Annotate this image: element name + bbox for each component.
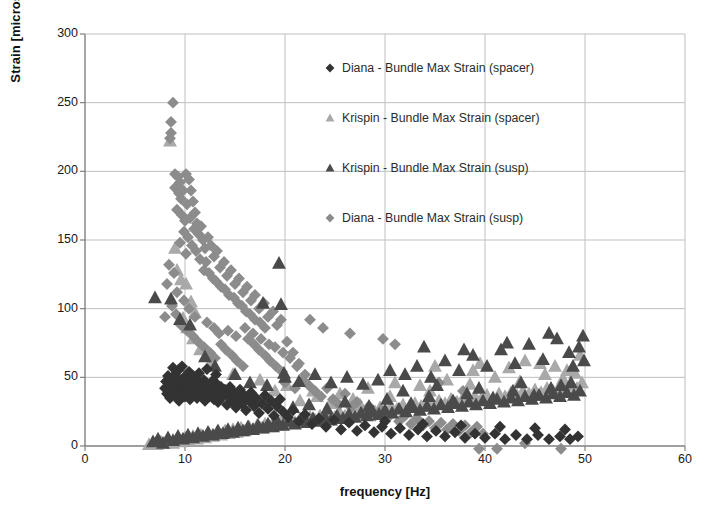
x-tick-label: 60 [665,452,705,466]
data-point [488,370,502,383]
data-point [371,373,385,386]
data-point [510,429,522,441]
legend-item-3[interactable]: Diana - Bundle Max Strain (susp) [326,211,524,225]
y-tick-label: 0 [34,438,78,452]
data-point [281,336,293,348]
legend-item-1[interactable]: Krispin - Bundle Max Strain (spacer) [326,111,540,125]
x-axis-tick-labels: 0102030405060 [0,452,723,474]
scatter-chart: Strain [microstrains] frequency [Hz] 050… [0,0,723,524]
x-tick-label: 40 [465,452,505,466]
data-point [308,367,322,380]
data-point [410,359,424,372]
data-point [417,340,431,353]
data-point [317,322,329,334]
plot-canvas: Diana - Bundle Max Strain (spacer)Krispi… [0,0,723,524]
data-point [165,116,177,128]
data-point [576,329,590,342]
legend-marker-icon [326,163,335,171]
data-point [452,363,466,376]
data-point [542,326,556,339]
legend-marker-icon [326,214,335,223]
legend-item-0[interactable]: Diana - Bundle Max Strain (spacer) [326,61,534,75]
data-point [161,278,173,290]
data-point [389,338,401,350]
data-point [413,378,427,391]
legend-label: Diana - Bundle Max Strain (spacer) [342,61,534,75]
data-point [518,354,532,367]
data-point [421,430,433,442]
legend-marker-icon [326,113,335,121]
data-point [340,370,354,383]
y-tick-label: 100 [34,301,78,315]
data-point [185,185,197,197]
data-point [438,354,452,367]
data-point [377,333,389,345]
y-tick-label: 300 [34,26,78,40]
x-tick-label: 0 [65,452,105,466]
data-point [159,311,171,323]
data-point [536,352,550,365]
data-point [548,359,562,372]
data-point [272,256,286,269]
data-point [385,428,397,440]
data-point [500,336,514,349]
x-axis-label: frequency [Hz] [85,484,685,499]
data-point [543,433,555,445]
data-point [398,367,412,380]
x-tick-label: 10 [165,452,205,466]
data-point [167,97,179,109]
legend-marker-icon [326,64,335,73]
data-point [499,433,511,445]
legend-item-2[interactable]: Krispin - Bundle Max Strain (susp) [326,161,529,175]
legend-label: Krispin - Bundle Max Strain (spacer) [342,111,540,125]
data-point [148,290,162,303]
y-tick-label: 200 [34,163,78,177]
data-point [403,429,415,441]
data-point [344,327,356,339]
y-tick-label: 150 [34,232,78,246]
x-tick-label: 30 [365,452,405,466]
x-tick-label: 50 [565,452,605,466]
legend-label: Diana - Bundle Max Strain (susp) [342,211,523,225]
data-point [304,314,316,326]
data-point [457,343,471,356]
y-axis-tick-labels: 050100150200250300 [28,0,78,524]
y-axis-label: Strain [microstrains] [8,0,23,138]
data-point [274,297,288,310]
data-point [522,337,536,350]
y-tick-label: 50 [34,369,78,383]
legend-label: Krispin - Bundle Max Strain (susp) [342,161,529,175]
y-tick-label: 250 [34,95,78,109]
data-point [572,340,586,353]
x-tick-label: 20 [265,452,305,466]
